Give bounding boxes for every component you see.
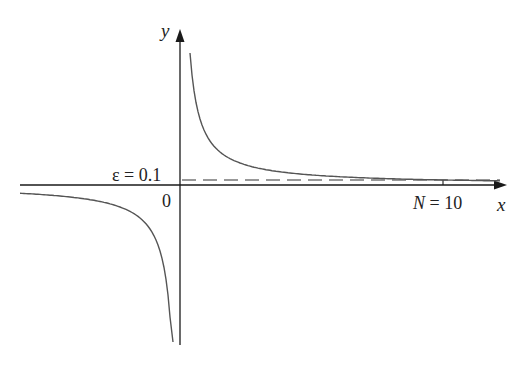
n-symbol: N xyxy=(412,193,426,213)
n-value: = 10 xyxy=(425,193,462,213)
y-axis-label: y xyxy=(159,20,170,41)
origin-label: 0 xyxy=(162,191,171,211)
curve-negative-branch xyxy=(20,193,173,342)
epsilon-label: ε = 0.1 xyxy=(112,165,161,185)
hyperbola-figure: y x 0 ε = 0.1 N = 10 xyxy=(0,0,522,366)
y-axis-arrow-icon xyxy=(176,29,185,42)
curve-positive-branch xyxy=(190,53,500,181)
x-axis-label: x xyxy=(496,194,506,215)
n-label: N = 10 xyxy=(412,193,462,213)
x-axis-arrow-icon xyxy=(494,181,507,190)
